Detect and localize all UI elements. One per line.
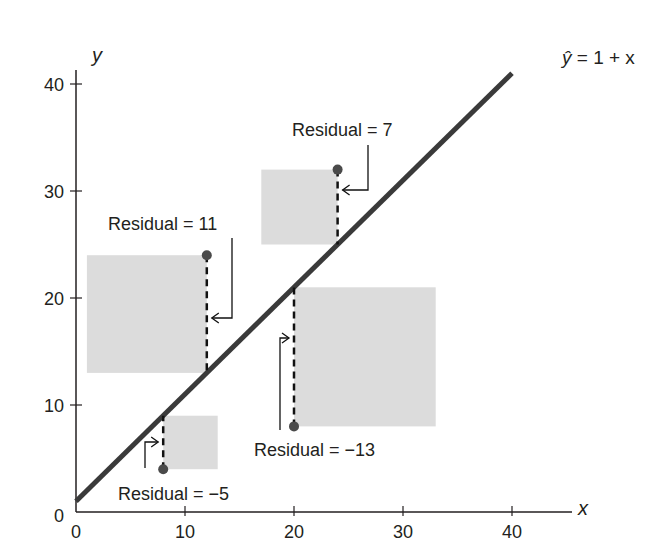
- data-point: [158, 464, 168, 474]
- y-tick-label: 30: [44, 182, 64, 202]
- residual-scatter-chart: 010203040010203040 Residual = −5Residual…: [0, 0, 652, 556]
- leader-line: [280, 338, 289, 430]
- x-axis-label: x: [577, 497, 589, 519]
- residual-label: Residual = 7: [292, 120, 393, 140]
- squared-residual-square: [163, 416, 218, 470]
- x-tick-label: 30: [393, 522, 413, 542]
- squared-residual-square: [261, 170, 337, 245]
- data-point: [333, 165, 343, 175]
- leader-line: [145, 442, 158, 468]
- data-point: [289, 421, 299, 431]
- x-tick-label: 10: [175, 522, 195, 542]
- squared-residual-square: [87, 255, 207, 373]
- residual-label: Residual = −13: [254, 440, 375, 460]
- y-tick-label: 0: [54, 506, 64, 526]
- x-tick-label: 0: [71, 522, 81, 542]
- leader-line: [343, 145, 368, 190]
- x-tick-label: 20: [284, 522, 304, 542]
- residual-label: Residual = −5: [118, 484, 229, 504]
- y-tick-label: 20: [44, 289, 64, 309]
- x-tick-label: 40: [502, 522, 522, 542]
- regression-equation-label: ŷ = 1 + x: [560, 47, 635, 68]
- y-tick-label: 40: [44, 75, 64, 95]
- squared-residual-square: [294, 287, 436, 426]
- residual-label: Residual = 11: [108, 214, 217, 234]
- y-axis-label: y: [90, 44, 103, 66]
- data-point: [202, 250, 212, 260]
- leader-line: [212, 238, 232, 318]
- y-tick-label: 10: [44, 396, 64, 416]
